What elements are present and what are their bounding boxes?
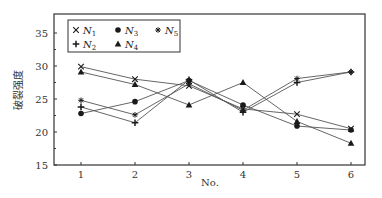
marker-circle-icon xyxy=(240,102,246,108)
x-tick-label: 6 xyxy=(348,169,354,180)
marker-star-icon xyxy=(78,98,84,104)
marker-plus-icon xyxy=(78,104,85,111)
marker-triangle-icon xyxy=(240,79,247,85)
y-tick-label: 35 xyxy=(35,28,48,39)
marker-star-icon xyxy=(294,76,300,82)
marker-circle-icon xyxy=(132,99,138,105)
x-tick-label: 1 xyxy=(78,169,84,180)
marker-circle-icon xyxy=(78,111,84,117)
marker-circle-icon xyxy=(294,123,300,129)
series-line xyxy=(81,72,351,143)
x-tick-label: 5 xyxy=(294,169,300,180)
marker-circle-icon xyxy=(348,127,354,133)
x-axis-title: No. xyxy=(201,177,219,188)
marker-star-icon xyxy=(348,69,354,75)
x-tick-label: 2 xyxy=(132,169,138,180)
marker-circle-icon xyxy=(115,27,121,33)
legend: N1N3N5N2N4 xyxy=(68,20,180,52)
y-tick-label: 15 xyxy=(35,160,48,171)
series-n1 xyxy=(78,64,354,132)
series-line xyxy=(81,67,351,129)
y-tick-label: 25 xyxy=(35,94,48,105)
x-tick-label: 4 xyxy=(240,169,246,180)
marker-star-icon xyxy=(155,27,161,33)
x-tick-label: 3 xyxy=(186,169,192,180)
marker-triangle-icon xyxy=(294,118,301,124)
line-chart: 1520253035 123456 N1N3N5N2N4 No. 破裂强度 xyxy=(0,0,382,198)
marker-star-icon xyxy=(186,81,192,87)
y-tick-label: 20 xyxy=(35,127,48,138)
series-n3 xyxy=(78,78,354,133)
y-axis-title: 破裂强度 xyxy=(12,70,24,110)
marker-star-icon xyxy=(240,107,246,113)
series-group xyxy=(78,64,355,146)
series-line xyxy=(81,81,351,131)
marker-star-icon xyxy=(132,112,138,118)
y-tick-label: 30 xyxy=(35,61,48,72)
series-n4 xyxy=(78,68,355,145)
